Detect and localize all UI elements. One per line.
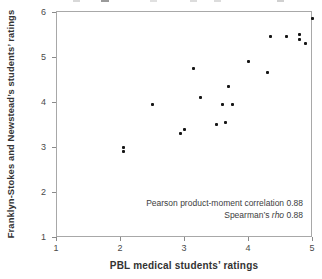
annotation-spearman-rho: rho xyxy=(272,210,284,220)
y-tick-label: 6 xyxy=(28,7,46,18)
data-point xyxy=(227,85,230,88)
y-tick-mark xyxy=(52,147,56,148)
x-tick-label: 1 xyxy=(46,243,66,253)
data-point xyxy=(311,17,314,20)
data-point xyxy=(199,96,202,99)
data-point xyxy=(298,38,301,41)
y-tick-mark xyxy=(52,102,56,103)
data-point xyxy=(266,71,269,74)
data-point xyxy=(215,123,218,126)
data-point xyxy=(304,42,307,45)
correlation-annotation: Pearson product-moment correlation 0.88 … xyxy=(146,197,303,221)
annotation-pearson: Pearson product-moment correlation 0.88 xyxy=(146,197,303,209)
y-tick-label: 1 xyxy=(28,232,46,243)
y-tick-mark xyxy=(52,192,56,193)
x-tick-mark xyxy=(248,237,249,241)
x-axis-title: PBL medical students’ ratings xyxy=(56,260,312,271)
x-tick-label: 4 xyxy=(238,243,258,253)
data-point xyxy=(122,146,125,149)
x-tick-mark xyxy=(120,237,121,241)
data-point xyxy=(221,103,224,106)
x-tick-mark xyxy=(184,237,185,241)
data-point xyxy=(231,103,234,106)
cropped-text-artifact xyxy=(214,0,221,2)
y-tick-label: 2 xyxy=(28,187,46,198)
cropped-text-artifact xyxy=(150,0,157,2)
data-point xyxy=(269,35,272,38)
annotation-spearman: Spearman’s rho 0.88 xyxy=(146,209,303,221)
scatter-plot-figure: Franklyn-Stokes and Newstead’s students’… xyxy=(0,0,322,279)
x-tick-mark xyxy=(56,237,57,241)
y-tick-mark xyxy=(52,237,56,238)
data-point xyxy=(192,67,195,70)
x-tick-label: 5 xyxy=(302,243,322,253)
data-point xyxy=(151,103,154,106)
data-point xyxy=(224,121,227,124)
cropped-text-artifact xyxy=(73,0,80,2)
data-point xyxy=(298,33,301,36)
y-tick-label: 5 xyxy=(28,52,46,63)
y-tick-mark xyxy=(52,57,56,58)
x-tick-mark xyxy=(312,237,313,241)
cropped-text-artifact xyxy=(101,0,109,2)
data-point xyxy=(183,128,186,131)
data-point xyxy=(247,60,250,63)
y-tick-label: 4 xyxy=(28,97,46,108)
cropped-text-artifact xyxy=(190,0,197,2)
x-tick-label: 2 xyxy=(110,243,130,253)
annotation-spearman-suffix: 0.88 xyxy=(284,210,303,220)
y-tick-mark xyxy=(52,12,56,13)
annotation-spearman-prefix: Spearman’s xyxy=(224,210,272,220)
y-axis-title: Franklyn-Stokes and Newstead’s students’… xyxy=(5,10,16,238)
data-point xyxy=(122,150,125,153)
x-tick-label: 3 xyxy=(174,243,194,253)
data-point xyxy=(285,35,288,38)
y-tick-label: 3 xyxy=(28,142,46,153)
cropped-text-artifact xyxy=(277,0,284,2)
